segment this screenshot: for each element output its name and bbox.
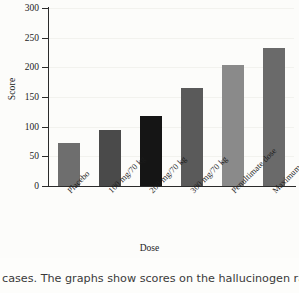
y-tick-label: 0 [5, 181, 39, 191]
bar [181, 88, 203, 186]
y-tick-label: 100 [5, 122, 39, 132]
bar [222, 65, 244, 186]
x-axis-tick-labels: Placebo100 mg/70 kg200 mg/70 kg300 mg/70… [49, 188, 294, 250]
y-tick-label: 50 [5, 151, 39, 161]
y-tick-label: 200 [5, 62, 39, 72]
figure-caption: cases. The graphs show scores on the hal… [0, 272, 299, 285]
bar-chart-figure: Score 050100150200250300 Placebo100 mg/7… [0, 0, 299, 258]
y-tick-label: 250 [5, 33, 39, 43]
y-tick-label: 150 [5, 92, 39, 102]
y-tick-label: 300 [5, 3, 39, 13]
x-axis-line [48, 186, 296, 187]
x-axis-title: Dose [0, 243, 299, 253]
